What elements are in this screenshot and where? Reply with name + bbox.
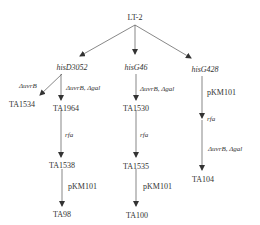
edge-label-uvrb-gal-right: ΔuvrB, Δgal bbox=[208, 145, 242, 154]
edge-label-uvrb-gal-mid: ΔuvrB, Δgal bbox=[140, 85, 174, 94]
edge-label-pkm101-left: pKM101 bbox=[68, 182, 97, 191]
edge-label-pkm101-mid: pKM101 bbox=[143, 182, 172, 191]
node-ta100: TA100 bbox=[126, 211, 148, 220]
edge-label-rfa-left: rfa bbox=[65, 131, 73, 140]
root-node-lt2: LT-2 bbox=[128, 13, 143, 22]
node-ta1964: TA1964 bbox=[53, 104, 79, 113]
node-hisG428: hisG428 bbox=[191, 65, 218, 74]
node-ta98: TA98 bbox=[53, 210, 71, 219]
node-ta1535: TA1535 bbox=[123, 162, 149, 171]
node-ta1534: TA1534 bbox=[9, 100, 35, 109]
node-hisD3052: hisD3052 bbox=[56, 63, 87, 72]
edge-label-uvrb-gal-left: ΔuvrB, Δgal bbox=[66, 84, 100, 93]
edge-label-uvrb: ΔuvrB bbox=[19, 82, 37, 91]
node-ta1530: TA1530 bbox=[123, 104, 149, 113]
edge-label-pkm101-right: pKM101 bbox=[207, 88, 236, 97]
edge-label-rfa-mid: rfa bbox=[140, 131, 148, 140]
node-ta1538: TA1538 bbox=[49, 161, 75, 170]
node-hisG46: hisG46 bbox=[124, 63, 147, 72]
edge-label-rfa-right: rfa bbox=[207, 115, 215, 124]
node-ta104: TA104 bbox=[192, 175, 214, 184]
